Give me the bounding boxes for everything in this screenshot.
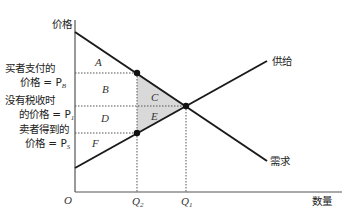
seller-price-point: [134, 130, 140, 136]
area-b-label: B: [102, 83, 109, 95]
area-e-label: E: [150, 110, 158, 122]
area-f-label: F: [91, 137, 99, 149]
equilibrium-point: [183, 103, 189, 109]
origin-label: O: [64, 194, 72, 206]
area-d-label: D: [100, 112, 109, 124]
notax-price-label-line1: 没有税收时: [5, 94, 56, 106]
seller-price-label-line2: 价格 = PS: [25, 137, 71, 151]
demand-curve: [75, 32, 267, 161]
notax-price-label-line2: 的价格 = P1: [19, 108, 74, 122]
seller-price-label-line1: 卖者得到的: [19, 123, 69, 135]
buyer-price-point: [134, 70, 140, 76]
supply-label: 供给: [272, 55, 293, 67]
buyer-price-label-line2: 价格 = PB: [20, 76, 67, 90]
tax-deadweight-loss-diagram: 价格 数量 O 供给 需求 买者支付的 价格 = PB 没有税收时 的价格 = …: [0, 0, 350, 223]
buyer-price-label-line1: 买者支付的: [5, 62, 55, 74]
x-axis-label: 数量: [312, 195, 333, 207]
deadweight-loss-area: [137, 73, 186, 133]
area-a-label: A: [94, 56, 102, 68]
area-c-label: C: [151, 91, 159, 103]
demand-label: 需求: [270, 155, 291, 167]
q2-label: Q2: [132, 195, 144, 209]
y-axis-label: 价格: [52, 18, 73, 30]
q1-label: Q1: [181, 195, 192, 209]
